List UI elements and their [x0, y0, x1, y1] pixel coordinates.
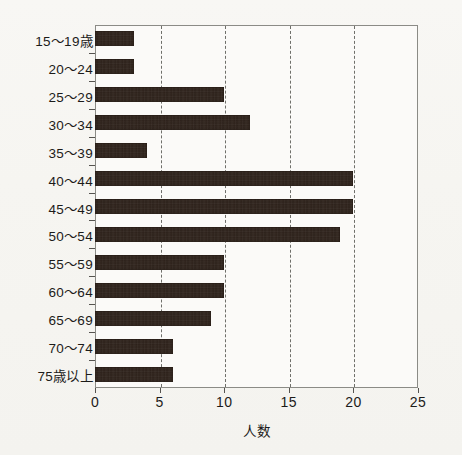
y-axis-label: 30～34 — [2, 114, 95, 134]
bar — [95, 367, 173, 382]
x-axis-tick — [95, 388, 96, 393]
bar-fill — [95, 115, 250, 130]
x-axis-tick-label: 5 — [156, 394, 164, 410]
bar-fill — [95, 143, 147, 158]
x-axis-tick-label: 20 — [345, 394, 361, 410]
y-axis-label: 25～29 — [2, 86, 95, 106]
bar-fill — [95, 31, 134, 46]
bar-fill — [95, 283, 224, 298]
bar — [95, 115, 250, 130]
y-axis-label: 60～64 — [2, 281, 95, 301]
bar-fill — [95, 87, 224, 102]
x-axis-tick — [224, 388, 225, 393]
bar — [95, 87, 224, 102]
bar — [95, 255, 224, 270]
bar — [95, 283, 224, 298]
horizontal-bar-chart: 15～19歳20～2425～2930～3435～3940～4445～4950～5… — [0, 0, 462, 455]
bar-fill — [95, 367, 173, 382]
bars-layer — [95, 25, 418, 388]
x-axis-tick-label: 15 — [281, 394, 297, 410]
y-axis-label: 55～59 — [2, 253, 95, 273]
bar — [95, 227, 340, 242]
bar — [95, 339, 173, 354]
y-axis-label: 45～49 — [2, 198, 95, 218]
bar — [95, 199, 353, 214]
y-axis-label: 35～39 — [2, 142, 95, 162]
y-axis-label: 15～19歳 — [2, 30, 95, 50]
y-axis-label: 20～24 — [2, 58, 95, 78]
y-axis-label: 50～54 — [2, 225, 95, 245]
bar-fill — [95, 59, 134, 74]
x-axis-tick-label: 0 — [91, 394, 99, 410]
y-axis-label: 75歳以上 — [2, 365, 95, 385]
bar-fill — [95, 199, 353, 214]
x-axis-tick — [289, 388, 290, 393]
x-axis-title: 人数 — [95, 420, 418, 440]
y-axis-labels: 15～19歳20～2425～2930～3435～3940～4445～4950～5… — [0, 25, 95, 388]
y-axis-label: 70～74 — [2, 337, 95, 357]
x-axis-tick — [353, 388, 354, 393]
bar — [95, 31, 134, 46]
x-axis-tick-labels: 0510152025 — [95, 394, 418, 414]
bar — [95, 143, 147, 158]
bar-fill — [95, 171, 353, 186]
bar-fill — [95, 339, 173, 354]
x-axis-tick — [418, 388, 419, 393]
y-axis-label: 40～44 — [2, 170, 95, 190]
x-axis-tick-label: 10 — [216, 394, 232, 410]
x-axis-tick-label: 25 — [410, 394, 426, 410]
bar-fill — [95, 255, 224, 270]
x-axis-tick — [160, 388, 161, 393]
bar — [95, 311, 211, 326]
bar-fill — [95, 311, 211, 326]
y-axis-label: 65～69 — [2, 309, 95, 329]
bar — [95, 171, 353, 186]
bar-fill — [95, 227, 340, 242]
bar — [95, 59, 134, 74]
